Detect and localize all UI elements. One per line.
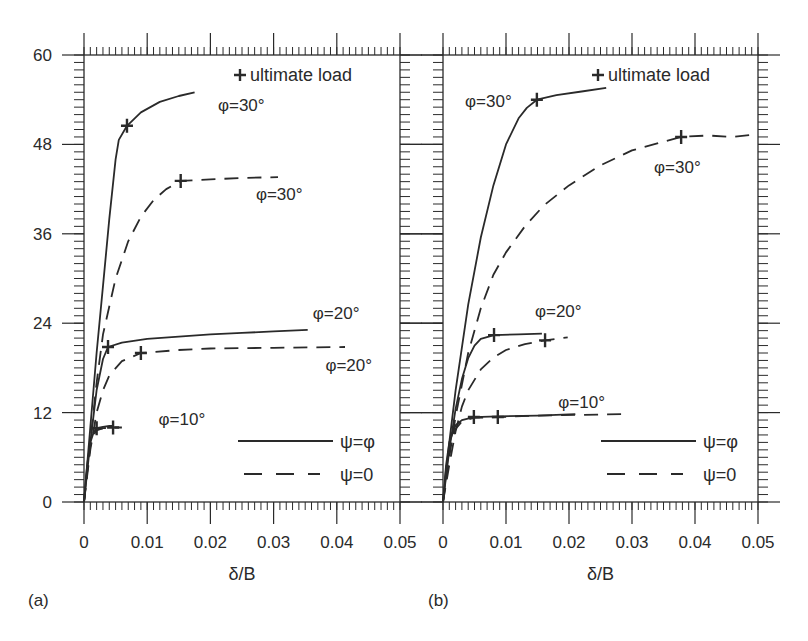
series-line <box>84 347 345 502</box>
panel-label: (b) <box>428 591 449 610</box>
panel-label: (a) <box>28 591 49 610</box>
curve-annotation: φ=20° <box>313 304 360 323</box>
panel-a: 00.010.020.030.040.0501224364860δ/B(a)φ=… <box>28 33 422 610</box>
x-tick-label: 0.01 <box>489 533 522 552</box>
x-tick-label: 0.01 <box>131 533 164 552</box>
ultimate-load-marker <box>135 346 147 360</box>
panel-b: 00.010.020.030.040.05δ/B(b)φ=30°φ=30°φ=2… <box>421 33 780 610</box>
y-tick-label: 0 <box>43 493 52 512</box>
x-tick-label: 0.02 <box>552 533 585 552</box>
ultimate-load-marker <box>539 333 551 347</box>
curve-annotation: φ=20° <box>325 356 372 375</box>
curve-annotation: φ=10° <box>558 393 605 412</box>
legend-label: ψ=φ <box>703 432 738 452</box>
figure: 00.010.020.030.040.0501224364860δ/B(a)φ=… <box>0 0 808 641</box>
x-tick-label: 0.03 <box>257 533 290 552</box>
y-tick-label: 12 <box>33 404 52 423</box>
x-tick-label: 0.05 <box>383 533 416 552</box>
series-line <box>443 414 624 502</box>
ultimate-load-marker <box>107 421 119 435</box>
y-tick-label: 48 <box>33 135 52 154</box>
curve-annotation: φ=30° <box>654 158 701 177</box>
x-tick-label: 0 <box>438 533 447 552</box>
x-axis-title: δ/B <box>228 564 255 584</box>
x-tick-label: 0.02 <box>194 533 227 552</box>
y-tick-label: 24 <box>33 314 52 333</box>
curve-annotation: φ=10° <box>159 410 206 429</box>
curve-annotation: φ=20° <box>535 302 582 321</box>
x-tick-label: 0.04 <box>678 533 711 552</box>
legend-label: ψ=φ <box>340 432 375 452</box>
series-line <box>84 177 278 502</box>
curve-annotation: φ=30° <box>218 96 265 115</box>
x-tick-label: 0.03 <box>615 533 648 552</box>
chart-canvas: 00.010.020.030.040.0501224364860δ/B(a)φ=… <box>0 0 808 641</box>
series-line <box>443 88 606 502</box>
legend-label: ψ=0 <box>703 465 736 485</box>
series-line <box>84 92 195 502</box>
plus-marker-icon <box>234 69 246 81</box>
x-tick-label: 0 <box>79 533 88 552</box>
x-axis-title: δ/B <box>587 564 614 584</box>
marker-legend-label: ultimate load <box>608 65 710 85</box>
ultimate-load-marker <box>675 130 687 144</box>
ultimate-load-marker <box>102 340 114 354</box>
ultimate-load-marker <box>175 174 187 188</box>
legend-label: ψ=0 <box>340 465 373 485</box>
series-line <box>443 414 575 502</box>
y-tick-label: 60 <box>33 46 52 65</box>
x-tick-label: 0.04 <box>320 533 353 552</box>
ultimate-load-marker <box>488 328 500 342</box>
y-tick-label: 36 <box>33 225 52 244</box>
curve-annotation: φ=30° <box>256 185 303 204</box>
curve-annotation: φ=30° <box>465 92 512 111</box>
x-tick-label: 0.05 <box>741 533 774 552</box>
ultimate-load-marker <box>492 410 504 424</box>
plus-marker-icon <box>592 69 604 81</box>
ultimate-load-marker <box>531 93 543 107</box>
marker-legend-label: ultimate load <box>250 65 352 85</box>
